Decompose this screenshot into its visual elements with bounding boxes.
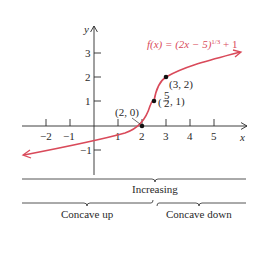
svg-text:3: 3 bbox=[85, 47, 91, 59]
x-ticks bbox=[46, 119, 214, 126]
point-2-0 bbox=[140, 124, 145, 129]
y-tick-labels: −1 1 2 3 bbox=[80, 47, 92, 156]
chart: x y −2 −1 1 2 3 4 5 −1 1 2 3 f(x) = ( bbox=[0, 0, 261, 253]
concave-down-label: Concave down bbox=[166, 208, 232, 220]
y-axis-label: y bbox=[83, 23, 89, 35]
increasing-brace bbox=[22, 179, 246, 182]
point-3-2 bbox=[164, 75, 169, 80]
increasing-label: Increasing bbox=[132, 183, 178, 195]
y-ticks bbox=[94, 53, 101, 150]
function-curve bbox=[24, 52, 240, 155]
svg-text:2: 2 bbox=[164, 97, 170, 109]
point-2-0-leader bbox=[132, 118, 140, 124]
svg-text:2: 2 bbox=[85, 71, 91, 83]
svg-text:5: 5 bbox=[211, 130, 217, 142]
point-label-3-2: (3, 2) bbox=[169, 78, 193, 91]
svg-text:3: 3 bbox=[163, 130, 169, 142]
svg-text:, 1): , 1) bbox=[170, 95, 185, 108]
svg-text:−1: −1 bbox=[80, 144, 92, 156]
concave-down-brace bbox=[157, 203, 246, 206]
concave-up-label: Concave up bbox=[61, 208, 114, 220]
svg-text:−1: −1 bbox=[63, 130, 75, 142]
x-axis-label: x bbox=[239, 131, 245, 143]
function-label: f(x) = (2x − 5)1/3 + 1 bbox=[147, 38, 238, 51]
concave-up-brace bbox=[22, 200, 153, 206]
svg-text:−2: −2 bbox=[40, 130, 52, 142]
svg-text:1: 1 bbox=[85, 95, 91, 107]
svg-text:4: 4 bbox=[187, 130, 193, 142]
svg-text:(: ( bbox=[158, 96, 162, 109]
point-label-2-0: (2, 0) bbox=[115, 106, 139, 119]
point-5half-1 bbox=[152, 99, 157, 104]
point-label-5half-1: ( 5 2 , 1) bbox=[158, 89, 185, 109]
svg-text:2: 2 bbox=[139, 130, 145, 142]
